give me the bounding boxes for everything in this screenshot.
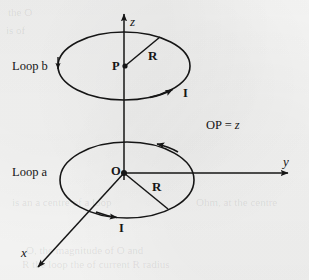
loop-a-label: Loop a	[12, 166, 47, 179]
loop-b-radius-label: R	[148, 49, 157, 62]
op-equals-prefix: OP =	[206, 118, 232, 132]
loop-b-label: Loop b	[12, 60, 48, 73]
loop-a-radius-line	[124, 173, 168, 209]
point-p-label: P	[112, 60, 120, 73]
op-equals-variable: z	[235, 118, 240, 132]
loop-b-current-label: I	[183, 87, 188, 100]
x-axis-line	[38, 173, 124, 267]
loop-a-ellipse	[60, 142, 194, 218]
x-axis-label: x	[21, 246, 27, 259]
physics-diagram-figure: the O is of is an a centre of a loop Ohm…	[0, 0, 309, 280]
point-p-dot	[122, 63, 127, 68]
diagram-canvas	[0, 0, 309, 280]
loop-a-radius-label: R	[152, 180, 161, 193]
point-o-dot	[121, 170, 127, 176]
loop-a-current-arrow-top	[157, 144, 178, 152]
loop-a-current-label: I	[119, 222, 124, 235]
op-equals-z-annotation: OP =z	[206, 119, 240, 132]
axis-x	[38, 173, 124, 267]
z-axis-label: z	[130, 15, 135, 28]
point-o-label: O	[111, 165, 121, 178]
y-axis-label: y	[283, 155, 289, 168]
loop-a-group	[60, 142, 194, 218]
